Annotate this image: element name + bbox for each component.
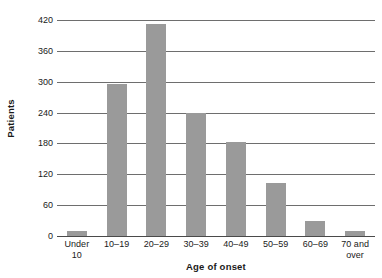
bar-slot xyxy=(137,20,177,236)
x-axis-tick-label: Under 10 xyxy=(57,239,97,260)
y-axis-tick-label: 240 xyxy=(20,108,53,117)
bar-chart-figure: Patients 060120180240300360420 Under 101… xyxy=(0,0,382,278)
x-axis-tick-label: 30–39 xyxy=(176,239,216,260)
x-axis-title: Age of onset xyxy=(57,261,375,272)
bar-slot xyxy=(216,20,256,236)
bar xyxy=(67,231,87,236)
y-axis-tick-label: 180 xyxy=(20,139,53,148)
x-axis-tick-label: 70 and over xyxy=(335,239,375,260)
y-axis-title-label: Patients xyxy=(5,99,16,138)
x-axis-tick-label: 10–19 xyxy=(97,239,137,260)
y-axis-tick-label: 300 xyxy=(20,77,53,86)
bar xyxy=(226,142,246,236)
bar-slot xyxy=(335,20,375,236)
y-axis-tick-label: 60 xyxy=(20,201,53,210)
x-axis-tick-label: 40–49 xyxy=(216,239,256,260)
bar-slot xyxy=(97,20,137,236)
x-axis-tick-label: 20–29 xyxy=(137,239,177,260)
bar xyxy=(146,24,166,236)
y-axis-tick-labels: 060120180240300360420 xyxy=(20,0,53,240)
gridline xyxy=(57,236,375,237)
y-axis-tick-label: 0 xyxy=(20,232,53,241)
x-axis-tick-labels: Under 1010–1920–2930–3940–4950–5960–6970… xyxy=(57,239,375,260)
x-axis-tick-label: 50–59 xyxy=(256,239,296,260)
bar xyxy=(345,231,365,236)
bar xyxy=(305,221,325,236)
bar xyxy=(186,113,206,236)
bars-group xyxy=(57,20,375,236)
bar xyxy=(107,84,127,236)
plot-area xyxy=(57,20,375,236)
bar-slot xyxy=(57,20,97,236)
bar-slot xyxy=(256,20,296,236)
x-axis-tick-label: 60–69 xyxy=(296,239,336,260)
bar-slot xyxy=(296,20,336,236)
bar xyxy=(266,183,286,236)
y-axis-tick-label: 420 xyxy=(20,16,53,25)
y-axis-title: Patients xyxy=(0,0,20,236)
y-axis-tick-label: 120 xyxy=(20,170,53,179)
y-axis-tick-label: 360 xyxy=(20,46,53,55)
bar-slot xyxy=(176,20,216,236)
